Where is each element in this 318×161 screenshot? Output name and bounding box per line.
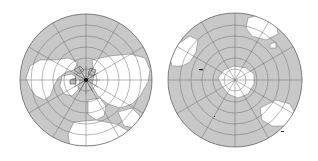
south-polar-map [168, 13, 302, 147]
north-polar-map [20, 14, 152, 146]
polar-maps-figure [0, 0, 318, 161]
north-pole-marker [84, 78, 88, 82]
